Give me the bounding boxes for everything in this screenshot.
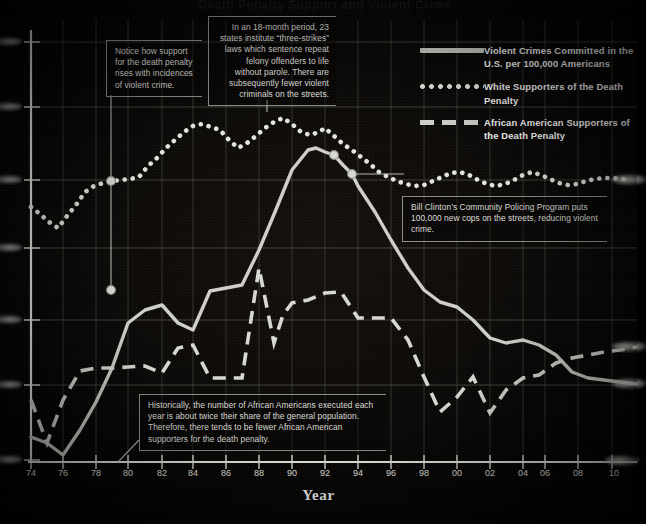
x-tick-76: 76 <box>58 468 68 478</box>
x-tick-10: 10 <box>609 468 619 478</box>
dotted-line-key <box>420 80 484 89</box>
x-tick-94: 94 <box>353 468 363 478</box>
x-tick-84: 84 <box>188 468 198 478</box>
dashed-line-key <box>420 116 484 125</box>
annotation-historical-executions: Historically, the number of African Amer… <box>139 394 386 451</box>
x-tick-80: 80 <box>123 468 133 478</box>
marker-crime-1993 <box>330 151 339 160</box>
x-tick-98: 98 <box>419 468 429 478</box>
legend-label-violent-crime: Violent Crimes Committed in the U.S. per… <box>484 44 635 70</box>
x-tick-96: 96 <box>386 468 396 478</box>
x-tick-02: 02 <box>485 468 495 478</box>
x-tick-86: 86 <box>221 468 231 478</box>
annotation-clinton-policing: Bill Clinton’s Community Policing Progra… <box>402 196 607 242</box>
legend-label-white-supporters: White Supporters of the Death Penalty <box>484 80 635 106</box>
annotation-three-strikes: In an 18-month period, 23 states institu… <box>208 16 336 106</box>
right-edge-nub <box>605 455 639 466</box>
right-edge-nub <box>612 174 646 185</box>
x-tick-00: 00 <box>452 468 462 478</box>
x-tick-78: 78 <box>91 468 101 478</box>
x-tick-06: 06 <box>540 468 550 478</box>
annotation-support-rises: Notice how support for the death penalty… <box>106 40 202 97</box>
x-tick-90: 90 <box>287 468 297 478</box>
x-tick-04: 04 <box>518 468 528 478</box>
callout-markers <box>107 151 357 295</box>
solid-line-key <box>420 44 484 53</box>
marker-white-1980 <box>107 177 116 186</box>
legend-label-african-american-supporters: African American Supporters of the Death… <box>484 116 635 142</box>
x-tick-88: 88 <box>254 468 264 478</box>
x-tick-74: 74 <box>26 468 36 478</box>
x-axis-label: Year <box>0 487 637 504</box>
right-edge-nub <box>612 341 646 352</box>
marker-crime-1980 <box>107 286 116 295</box>
legend-item-violent-crime: Violent Crimes Committed in the U.S. per… <box>420 44 635 70</box>
x-tick-92: 92 <box>320 468 330 478</box>
marker-crime-1994 <box>348 170 357 179</box>
x-tick-82: 82 <box>157 468 167 478</box>
right-edge-nub <box>612 378 646 389</box>
chart-legend: Violent Crimes Committed in the U.S. per… <box>420 44 635 149</box>
x-tick-08: 08 <box>573 468 583 478</box>
legend-item-white-supporters: White Supporters of the Death Penalty <box>420 80 635 106</box>
legend-item-african-american-supporters: African American Supporters of the Death… <box>420 116 635 142</box>
